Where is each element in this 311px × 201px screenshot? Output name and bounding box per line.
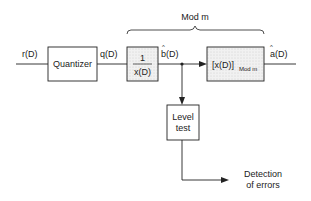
a-hat-label: a(D) — [270, 49, 288, 59]
b-hat-label: b(D) — [161, 49, 179, 59]
block-diagram: Mod m r(D) Quantizer q(D) 1 x(D) b(D) ^ … — [0, 0, 311, 201]
error-path-line — [182, 140, 222, 180]
level-test-line2: test — [176, 123, 191, 133]
modulo-sub-label: Mod m — [239, 66, 257, 72]
input-signal-label: r(D) — [22, 49, 38, 59]
level-test-line1: Level — [172, 112, 194, 122]
inverse-numerator: 1 — [140, 53, 145, 63]
a-hat-mark: ^ — [270, 44, 273, 50]
b-hat-mark: ^ — [162, 44, 165, 50]
arrow-to-mod-icon — [199, 61, 207, 67]
inverse-denominator: x(D) — [134, 67, 151, 77]
quantizer-label: Quantizer — [53, 59, 92, 69]
arrow-to-level-test-icon — [179, 97, 185, 105]
arrow-to-detection-icon — [221, 177, 229, 183]
modulo-main-label: [x(D)] — [212, 60, 234, 70]
quantized-signal-label: q(D) — [100, 49, 118, 59]
brace-label: Mod m — [181, 12, 209, 22]
detection-line2: of errors — [246, 180, 280, 190]
detection-line1: Detection — [244, 169, 282, 179]
mod-m-brace — [127, 26, 264, 34]
